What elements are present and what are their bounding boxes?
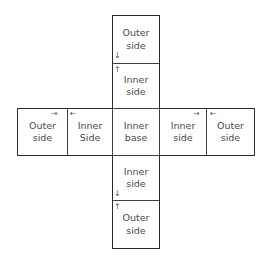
panel-label-line2: side <box>171 132 196 145</box>
stitch-seam-right <box>206 109 207 155</box>
panel-label-line2: base <box>124 132 149 145</box>
stitch-seam-center-bottom <box>113 155 159 156</box>
stitch-seam-left <box>67 109 68 155</box>
stitch-seam-top <box>113 63 159 64</box>
panel-label-line1: Inner <box>171 120 196 133</box>
panel-label-line2: side <box>123 40 150 53</box>
panel-label-line2: side <box>124 178 149 191</box>
panel-label-line1: Outer <box>29 120 56 133</box>
arrow-down-icon: ↓ <box>114 52 121 60</box>
panel-label-line1: Inner <box>124 120 149 133</box>
panel-label-line1: Outer <box>123 27 150 40</box>
stitch-seam-center-right <box>159 109 160 155</box>
arrow-right-icon: → <box>51 110 58 118</box>
stitch-seam-bottom <box>113 200 159 201</box>
panel-label-line1: Inner <box>124 166 149 179</box>
panel-label-line1: Outer <box>123 212 150 225</box>
panel-label-line2: side <box>123 225 150 238</box>
panel-label-line2: side <box>217 132 244 145</box>
panel-label-line1: Inner <box>78 120 103 133</box>
panel-label-line1: Inner <box>124 74 149 87</box>
panel-inner-base: Inner base <box>112 108 160 156</box>
arrow-up-icon: ↑ <box>114 203 121 211</box>
arrow-right-icon: → <box>193 110 200 118</box>
stitch-seam-center-top <box>113 108 159 109</box>
arrow-up-icon: ↑ <box>114 66 121 74</box>
arrow-left-icon: ← <box>70 110 77 118</box>
panel-label-line2: side <box>29 132 56 145</box>
arrow-down-icon: ↓ <box>114 190 121 198</box>
arrow-left-icon: ← <box>210 110 217 118</box>
panel-label-line1: Outer <box>217 120 244 133</box>
panel-left-outer-side: Outer side <box>17 108 68 156</box>
stitch-seam-center-left <box>112 109 113 155</box>
panel-label-line2: side <box>124 86 149 99</box>
panel-label-line2: Side <box>78 132 103 145</box>
